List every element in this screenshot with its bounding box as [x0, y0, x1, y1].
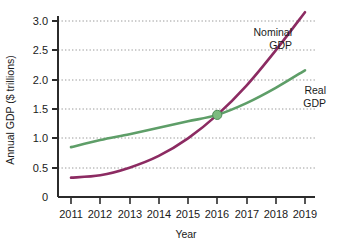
x-tick-label-2019: 2019	[293, 208, 317, 220]
x-tick-label-2016: 2016	[205, 208, 229, 220]
real-gdp-label-line2: GDP	[303, 97, 326, 109]
x-axis-tick-labels: 2011 2012 2013 2014 2015 2016 2017 2018 …	[59, 208, 317, 220]
gdp-line-chart: Annual GDP ($ trillions) 3.0 2.5 2	[0, 0, 339, 252]
x-axis-title: Year	[175, 228, 197, 240]
y-tick-label-2-0: 2.0	[33, 74, 48, 86]
y-axis-tick-labels: 3.0 2.5 2.0 1.5 1.0 0.5 0	[33, 15, 48, 203]
x-tick-label-2011: 2011	[59, 208, 83, 220]
x-tick-label-2013: 2013	[118, 208, 142, 220]
chart-canvas: Annual GDP ($ trillions) 3.0 2.5 2	[0, 0, 339, 252]
series-annotation-real: Real GDP	[303, 84, 326, 109]
y-axis-title: Annual GDP ($ trillions)	[4, 55, 16, 165]
y-tick-label-1-5: 1.5	[33, 103, 48, 115]
x-tick-label-2018: 2018	[264, 208, 288, 220]
y-tick-label-0: 0	[42, 191, 48, 203]
x-axis-ticks	[71, 197, 305, 204]
series-annotation-nominal: Nominal GDP	[253, 26, 292, 51]
intersection-marker-icon	[213, 110, 222, 119]
y-tick-label-2-5: 2.5	[33, 44, 48, 56]
x-tick-label-2012: 2012	[88, 208, 112, 220]
nominal-gdp-label-line1: Nominal	[253, 26, 292, 38]
y-tick-label-3-0: 3.0	[33, 15, 48, 27]
y-tick-label-1-0: 1.0	[33, 132, 48, 144]
real-gdp-label-line1: Real	[304, 84, 326, 96]
x-tick-label-2017: 2017	[235, 208, 259, 220]
nominal-gdp-label-line2: GDP	[269, 39, 292, 51]
x-tick-label-2014: 2014	[147, 208, 171, 220]
y-tick-label-0-5: 0.5	[33, 162, 48, 174]
x-tick-label-2015: 2015	[176, 208, 200, 220]
